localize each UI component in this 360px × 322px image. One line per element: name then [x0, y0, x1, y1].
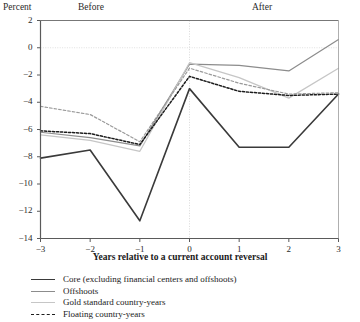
y-tick-label: 0: [7, 42, 33, 52]
legend-item-label: Core (excluding financial centers and of…: [63, 274, 237, 285]
chart-legend: Core (excluding financial centers and of…: [30, 274, 350, 320]
legend-swatch-icon: [30, 274, 56, 285]
legend-swatch-icon: [30, 309, 56, 320]
chart-figure: Percent Before After 20−2−4−6−8−10−12−14…: [0, 0, 360, 322]
series-line-4: [41, 68, 339, 142]
legend-item-label: Floating country-years: [63, 309, 145, 320]
y-tick-label: −2: [7, 69, 33, 79]
y-tick-label: −14: [7, 233, 33, 243]
legend-swatch-icon: [30, 297, 56, 308]
y-tick-label: −4: [7, 96, 33, 106]
legend-swatch-icon: [30, 286, 56, 297]
legend-item-3: Floating country-years: [30, 309, 350, 321]
y-tick-label: −6: [7, 124, 33, 134]
legend-item-label: Offshoots: [63, 286, 98, 297]
y-tick-label: −8: [7, 151, 33, 161]
y-tick-label: 2: [7, 15, 33, 25]
legend-item-1: Offshoots: [30, 286, 350, 298]
axis-ticks: [37, 21, 339, 243]
series-line-3: [41, 76, 339, 144]
y-tick-label: −10: [7, 178, 33, 188]
y-tick-label: −12: [7, 205, 33, 215]
legend-item-label: Gold standard country-years: [63, 297, 165, 308]
legend-item-2: Gold standard country-years: [30, 297, 350, 309]
series-line-0: [41, 89, 339, 221]
gridlines: [41, 21, 339, 239]
x-axis-title: Years relative to a current account reve…: [0, 252, 360, 262]
legend-item-0: Core (excluding financial centers and of…: [30, 274, 350, 286]
